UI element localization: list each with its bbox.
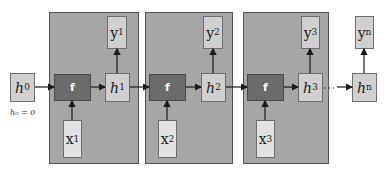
arrows-layer: [0, 0, 389, 174]
